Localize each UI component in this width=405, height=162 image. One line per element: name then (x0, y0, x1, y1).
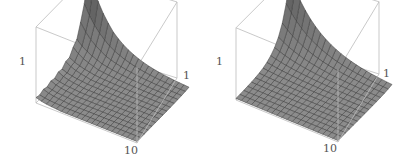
y-axis-max-label: 1 (183, 70, 190, 81)
surface-mesh (236, 0, 392, 141)
y-axis-max-label: 1 (383, 68, 390, 79)
x-axis-max-label: 10 (323, 143, 337, 154)
z-axis-max-label: 1 (19, 56, 26, 67)
x-axis-max-label: 10 (124, 145, 138, 156)
surface-plot-left: 1 1 10 (0, 0, 202, 162)
surface-plot-left-canvas (0, 0, 202, 162)
surface-plot-right: 1 1 10 (205, 0, 405, 162)
surface-plot-right-canvas (205, 0, 405, 162)
z-axis-max-label: 1 (216, 56, 223, 67)
surface-mesh (36, 0, 189, 141)
